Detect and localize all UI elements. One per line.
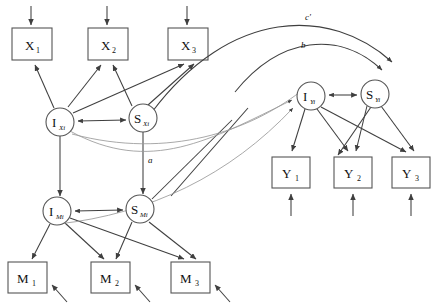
subscript-x1: 1 <box>36 46 40 55</box>
indicator-y1: Y 1 <box>272 157 310 216</box>
loading-sy-y2 <box>356 106 367 151</box>
cov-ix-sx <box>78 120 126 121</box>
factor-sy: S Yi <box>361 80 389 108</box>
path-sm-diagonal <box>152 120 232 199</box>
subscript-ix: Xi <box>58 124 65 132</box>
subscript-sx: Xi <box>142 120 149 128</box>
path-label-b: b <box>301 40 306 50</box>
loading-sx-x2 <box>113 65 132 106</box>
cov-im-sm <box>75 210 123 211</box>
subscript-sm: Mi <box>139 211 148 219</box>
subscript-im: Mi <box>55 213 64 221</box>
indicator-x1: X 1 <box>12 6 52 60</box>
loading-iy-y3 <box>321 107 406 152</box>
label-x1: X <box>25 38 35 53</box>
label-iy: I <box>303 89 307 104</box>
indicator-y2: Y 2 <box>334 157 372 216</box>
path-label-cprime: c' <box>305 12 312 22</box>
subscript-iy: Yi <box>310 98 315 106</box>
loading-im-m3 <box>70 218 184 259</box>
subscript-y3: 3 <box>415 174 419 183</box>
subscript-sy: Yi <box>375 96 380 104</box>
loading-sm-m3 <box>149 222 196 259</box>
loading-iy-y2 <box>317 109 348 151</box>
residual-arrow-m1 <box>52 285 67 302</box>
indicator-x2: X 2 <box>88 6 128 60</box>
loading-im-m1 <box>32 224 50 259</box>
subscript-x2: 2 <box>112 46 116 55</box>
factor-ix: I Xi <box>46 108 74 136</box>
factor-iy: I Yi <box>297 82 325 110</box>
loading-iy-y1 <box>292 109 305 151</box>
loading-sm-m2 <box>116 222 132 259</box>
label-ix: I <box>52 115 56 130</box>
loading-ix-x3 <box>73 64 184 113</box>
loading-ix-x1 <box>35 65 54 108</box>
loading-ix-x2 <box>68 65 101 107</box>
subscript-m2: 2 <box>115 279 119 288</box>
residual-arrow-m2 <box>135 285 150 302</box>
indicator-x3: X 3 <box>168 6 208 60</box>
label-m3: M <box>180 271 192 286</box>
label-sy: S <box>366 87 373 102</box>
label-x2: X <box>101 38 111 53</box>
diagram-canvas: X 1 X 2 X 3 M 1 M 2 <box>0 0 434 304</box>
path-sm-diagonal-2 <box>171 108 248 196</box>
label-m2: M <box>100 271 112 286</box>
label-y1: Y <box>282 166 292 181</box>
label-sx: S <box>134 111 141 126</box>
indicator-y3: Y 3 <box>392 157 430 216</box>
path-diagram-svg: X 1 X 2 X 3 M 1 M 2 <box>0 0 434 304</box>
subscript-y2: 2 <box>357 174 361 183</box>
label-y2: Y <box>344 166 354 181</box>
subscript-m3: 3 <box>195 279 199 288</box>
label-sm: S <box>131 202 138 217</box>
path-ix-to-iy <box>70 100 292 151</box>
residual-arrow-m3 <box>215 285 230 302</box>
label-y3: Y <box>402 166 412 181</box>
indicator-m1: M 1 <box>8 262 67 302</box>
loading-sy-y3 <box>381 106 414 151</box>
subscript-m1: 1 <box>32 279 36 288</box>
path-label-a: a <box>148 155 153 165</box>
subscript-y1: 1 <box>295 174 299 183</box>
factor-sx: S Xi <box>129 104 157 132</box>
indicator-m3: M 3 <box>171 262 230 302</box>
factor-sm: S Mi <box>126 195 154 223</box>
subscript-x3: 3 <box>192 46 196 55</box>
path-im-to-iy <box>58 108 293 224</box>
indicator-m2: M 2 <box>91 262 150 302</box>
factor-im: I Mi <box>43 197 71 225</box>
label-im: I <box>49 204 53 219</box>
path-curve-aux-1 <box>72 92 300 144</box>
label-x3: X <box>181 38 191 53</box>
label-m1: M <box>17 271 29 286</box>
